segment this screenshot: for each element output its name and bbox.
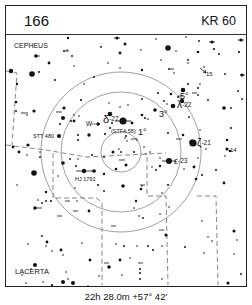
star-lambda-cep — [171, 104, 176, 109]
label-lambda: λ-22 — [177, 99, 192, 110]
label-w-arrow: W — [86, 120, 93, 127]
label-delta: δ-27 — [103, 113, 119, 125]
star-field: CEPHEUS LACERTA 1° 3° 5° δ-27 (STFA 58) … — [6, 35, 246, 286]
object-name: KR 60 — [201, 14, 236, 28]
constellation-label-lacerta: LACERTA — [15, 267, 49, 276]
constellation-label-cepheus: CEPHEUS — [14, 42, 48, 49]
finder-chart-frame: 166 KR 60 — [5, 5, 247, 287]
ring-label-1-degree: 1° — [138, 127, 147, 137]
ring-label-3-degree: 3° — [159, 109, 168, 119]
label-hj1791: HJ 1791 — [75, 176, 96, 182]
chart-header: 166 KR 60 — [6, 6, 246, 35]
star-zeta-cep — [189, 139, 196, 146]
chart-number: 166 — [24, 12, 49, 29]
label-stt480: STT 480 — [33, 133, 54, 139]
star-stt480 — [57, 134, 61, 138]
label-epsilon: ε-23 — [174, 156, 188, 166]
label-star-14: 14 — [230, 147, 237, 153]
label-stfa58: (STFA 58) — [111, 128, 136, 134]
star-14 — [225, 147, 228, 150]
label-star-15: 15 — [206, 71, 213, 77]
center-coordinates: 22h 28.0m +57° 42' — [0, 291, 252, 302]
star-kr60-center — [120, 151, 122, 153]
label-zeta: ζ-21 — [197, 137, 211, 149]
